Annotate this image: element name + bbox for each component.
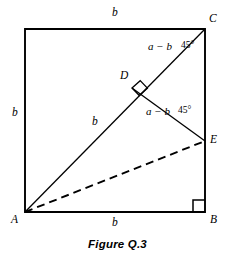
figure-caption: Figure Q.3 — [0, 238, 235, 250]
figure-container: A B C D E b b b b a − b a − b 45° 45° Fi… — [0, 0, 235, 261]
bottom-side-length-label: b — [112, 217, 118, 229]
angle-at-c-label: 45° — [181, 41, 194, 51]
vertex-label-d: D — [120, 70, 128, 82]
dashed-line-ae — [25, 141, 205, 212]
vertex-label-e: E — [210, 134, 217, 146]
diagonal-line-ac — [25, 29, 205, 212]
vertex-label-a: A — [11, 214, 18, 226]
left-side-length-label: b — [12, 107, 18, 119]
vertex-label-b: B — [210, 214, 217, 226]
segment-dc-length-label: a − b — [148, 41, 172, 52]
right-angle-at-b-icon — [193, 200, 205, 212]
vertex-label-c: C — [209, 13, 217, 25]
top-side-length-label: b — [112, 7, 118, 19]
segment-de-length-label: a − b — [146, 106, 170, 117]
angle-at-e-label: 45° — [178, 106, 191, 116]
diagonal-ad-length-label: b — [92, 116, 98, 128]
